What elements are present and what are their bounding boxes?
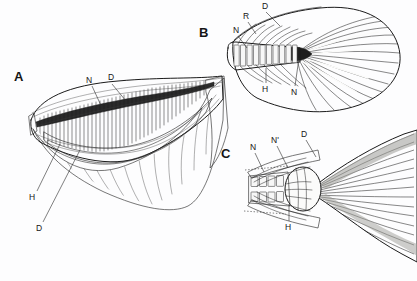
- panel-a: A N D H D: [14, 69, 228, 233]
- panel-a-label-d-lower: D: [36, 223, 42, 233]
- panel-c-label-d: D: [301, 129, 307, 139]
- panel-a-leader-d-upper: [112, 84, 126, 101]
- panel-b-letter: B: [199, 25, 209, 40]
- panel-b-label-n-lower: N: [291, 87, 297, 97]
- panel-b-neural-spines: [238, 24, 312, 45]
- panel-b-label-h: H: [262, 84, 268, 94]
- panel-c-leader-n: [255, 153, 264, 172]
- panel-b-label-n-left: N: [233, 25, 239, 35]
- panel-c-label-n: N: [250, 142, 256, 152]
- panel-c-label-h: H: [285, 222, 291, 232]
- panel-b-haemal-spines: [240, 64, 306, 88]
- panel-a-label-n: N: [86, 75, 92, 85]
- panel-b-label-r: R: [243, 11, 249, 21]
- panel-b-label-d: D: [262, 1, 268, 11]
- panel-a-label-d-upper: D: [108, 72, 114, 82]
- panel-b-rays: [296, 14, 400, 110]
- panel-a-label-h: H: [29, 192, 35, 202]
- figure-plate: A N D H D: [0, 0, 417, 281]
- panel-c-hypural-hub: [285, 167, 321, 211]
- panel-a-letter: A: [14, 69, 24, 84]
- panel-c: C N N' D H: [221, 129, 417, 262]
- panel-a-leader-d-lower: [43, 150, 80, 222]
- panel-c-segments: [251, 176, 284, 203]
- panel-b-leader-r: [248, 22, 256, 34]
- panel-c-fan-shade-top: [320, 132, 417, 189]
- panel-b-highlights: [299, 32, 378, 92]
- panel-b: B N R D H N: [199, 1, 400, 112]
- panel-a-leader-h: [37, 144, 60, 191]
- panel-c-label-n-prime: N': [271, 135, 279, 145]
- panel-c-letter: C: [221, 146, 231, 161]
- panel-b-segments: [234, 45, 297, 66]
- panel-a-ventral-sheath: [33, 78, 224, 210]
- panel-c-leader-d: [306, 140, 316, 157]
- panel-c-fan-shade-bottom: [320, 194, 417, 256]
- plate-canvas: A N D H D: [0, 0, 417, 281]
